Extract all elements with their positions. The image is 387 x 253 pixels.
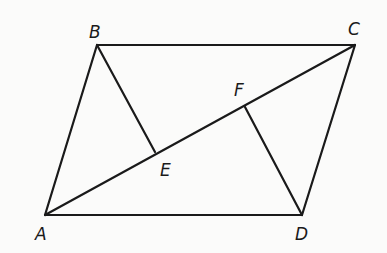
segment-df <box>245 107 302 215</box>
label-e: E <box>160 160 171 180</box>
label-d: D <box>295 224 308 244</box>
segment-ab <box>45 45 97 215</box>
geometry-diagram: B C F E A D <box>0 0 387 253</box>
diagram-canvas: B C F E A D <box>0 0 387 253</box>
label-b: B <box>89 22 101 42</box>
segment-be <box>97 45 155 152</box>
label-a: A <box>34 224 47 244</box>
label-c: C <box>348 19 360 39</box>
label-f: F <box>234 80 244 100</box>
diagonal-ac <box>45 45 355 215</box>
